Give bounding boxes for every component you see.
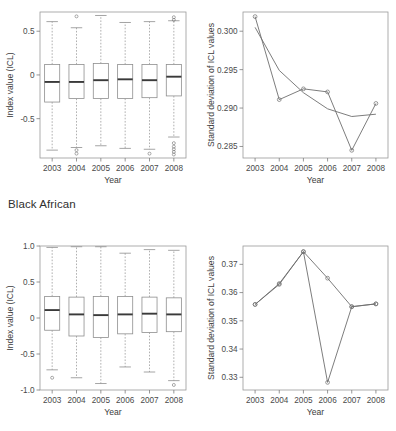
- x-axis-title: Year: [307, 175, 325, 185]
- outlier-point: [172, 383, 175, 386]
- y-tick-label: 0.5: [23, 278, 35, 287]
- x-tick-label: 2005: [294, 396, 313, 405]
- series-line: [255, 252, 376, 307]
- chart-bottom-right-line: 0.330.340.350.360.3720032004200520062007…: [198, 228, 396, 431]
- x-tick-label: 2004: [67, 396, 86, 405]
- group-label-black-african: Black African: [8, 198, 76, 210]
- y-tick-label: 0: [30, 314, 35, 323]
- outlier-point: [75, 149, 78, 152]
- y-axis-title: Index value (ICL): [5, 285, 15, 351]
- x-tick-label: 2005: [92, 396, 111, 405]
- x-tick-label: 2007: [343, 164, 362, 173]
- y-tick-label: 0: [30, 71, 35, 80]
- series-line: [255, 252, 376, 383]
- series-line: [255, 27, 376, 116]
- chart-bottom-right-svg: 0.330.340.350.360.3720032004200520062007…: [198, 228, 396, 431]
- series-point: [374, 102, 378, 106]
- y-tick-label: 0.285: [217, 142, 238, 151]
- box-rect: [69, 297, 84, 336]
- y-tick-label: -0.5: [20, 350, 35, 359]
- box-rect: [166, 64, 181, 95]
- x-tick-label: 2003: [246, 164, 265, 173]
- box-rect: [118, 64, 133, 98]
- series-line: [255, 17, 376, 151]
- y-tick-label: 1.0: [23, 242, 35, 251]
- y-tick-label: 0.295: [217, 66, 238, 75]
- x-tick-label: 2008: [165, 396, 184, 405]
- x-tick-label: 2004: [270, 164, 289, 173]
- x-tick-label: 2008: [367, 164, 386, 173]
- y-tick-label: 0.5: [23, 27, 35, 36]
- y-tick-label: 0.33: [222, 373, 238, 382]
- x-tick-label: 2005: [294, 164, 313, 173]
- x-tick-label: 2006: [116, 396, 135, 405]
- chart-bottom-left-boxplot: 1.00.50-0.5-1.0200320042005200620072008Y…: [0, 228, 198, 431]
- x-axis-title: Year: [104, 175, 122, 185]
- outlier-point: [75, 152, 78, 155]
- y-axis-title: Standard deviation of ICL values: [206, 23, 216, 147]
- x-tick-label: 2004: [270, 396, 289, 405]
- y-axis-title: Standard deviation of ICL values: [206, 256, 216, 380]
- chart-top-right-line: 0.2850.2900.2950.30020032004200520062007…: [198, 0, 396, 195]
- x-tick-label: 2003: [43, 164, 62, 173]
- figure-panel-grid: Black African 0.50-0.5200320042005200620…: [0, 0, 396, 431]
- box-rect: [45, 296, 60, 330]
- x-tick-label: 2006: [116, 164, 135, 173]
- y-tick-label: 0.35: [222, 317, 238, 326]
- x-tick-label: 2004: [67, 164, 86, 173]
- box-rect: [93, 296, 108, 337]
- x-tick-label: 2007: [343, 396, 362, 405]
- chart-top-left-svg: 0.50-0.5200320042005200620072008YearInde…: [0, 0, 198, 195]
- chart-top-right-svg: 0.2850.2900.2950.30020032004200520062007…: [198, 0, 396, 195]
- outlier-point: [75, 15, 78, 18]
- x-tick-label: 2005: [92, 164, 111, 173]
- x-axis-title: Year: [104, 407, 122, 417]
- chart-bottom-left-svg: 1.00.50-0.5-1.0200320042005200620072008Y…: [0, 228, 198, 431]
- y-tick-label: 0.290: [217, 104, 238, 113]
- y-tick-label: -1.0: [20, 386, 35, 395]
- y-tick-label: 0.36: [222, 288, 238, 297]
- x-tick-label: 2007: [140, 164, 159, 173]
- x-axis-title: Year: [307, 407, 325, 417]
- x-tick-label: 2003: [246, 396, 265, 405]
- x-tick-label: 2006: [318, 164, 337, 173]
- chart-top-left-boxplot: 0.50-0.5200320042005200620072008YearInde…: [0, 0, 198, 195]
- outlier-point: [172, 142, 175, 145]
- outlier-point: [51, 376, 54, 379]
- x-tick-label: 2003: [43, 396, 62, 405]
- x-tick-label: 2008: [165, 164, 184, 173]
- y-axis-title: Index value (ICL): [5, 52, 15, 118]
- box-rect: [142, 297, 157, 332]
- outlier-point: [148, 152, 151, 155]
- y-tick-label: -0.5: [20, 115, 35, 124]
- y-tick-label: 0.34: [222, 345, 238, 354]
- x-tick-label: 2006: [318, 396, 337, 405]
- x-tick-label: 2008: [367, 396, 386, 405]
- y-tick-label: 0.300: [217, 27, 238, 36]
- y-tick-label: 0.37: [222, 260, 238, 269]
- x-tick-label: 2007: [140, 396, 159, 405]
- box-rect: [45, 64, 60, 102]
